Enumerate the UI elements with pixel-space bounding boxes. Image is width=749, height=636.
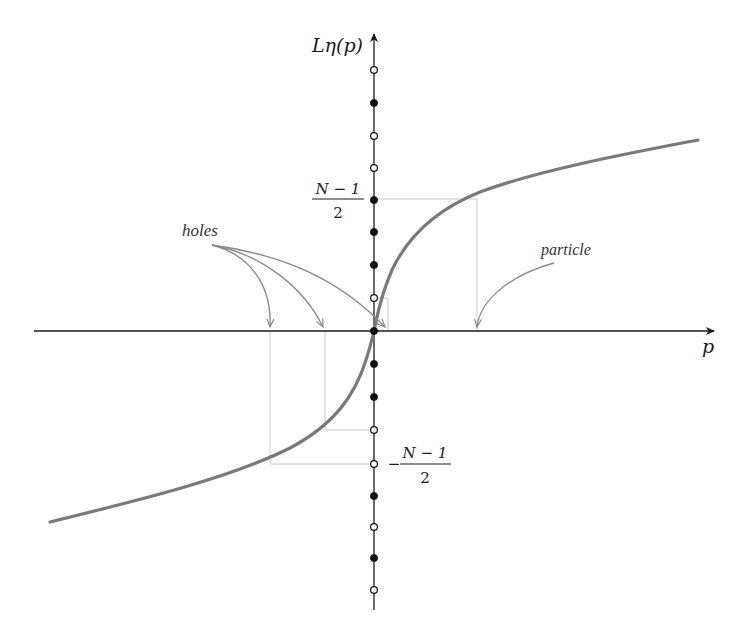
- filled-site-dot: [370, 393, 377, 400]
- filled-site-dot: [370, 261, 377, 268]
- open-site-dot: [371, 133, 378, 140]
- filled-site-dot: [370, 99, 377, 106]
- holes-arrows: [212, 245, 385, 327]
- upper-level-label: N − 1 2: [312, 180, 364, 222]
- lower-level-label: − N − 1 2: [388, 444, 451, 487]
- diagram-svg: Lη(p) p N − 1 2 − N − 1 2 holes particle: [0, 0, 749, 636]
- filled-site-dot: [370, 228, 377, 235]
- x-axis-label: p: [702, 335, 714, 357]
- open-site-dot: [371, 427, 378, 434]
- lower-level-sign: −: [388, 455, 401, 473]
- open-site-dot: [371, 295, 378, 302]
- open-site-dot: [371, 524, 378, 531]
- filled-site-dot: [370, 327, 377, 334]
- lower-level-denominator: 2: [420, 469, 430, 487]
- upper-level-denominator: 2: [333, 204, 343, 222]
- open-site-dot: [371, 67, 378, 74]
- particle-label: particle: [540, 241, 591, 259]
- open-site-dot: [371, 165, 378, 172]
- lower-level-numerator: N − 1: [402, 444, 448, 462]
- diagram-canvas: Lη(p) p N − 1 2 − N − 1 2 holes particle: [0, 0, 749, 636]
- holes-arrow-1: [212, 245, 270, 327]
- y-axis-label: Lη(p): [311, 34, 363, 56]
- open-site-dot: [371, 587, 378, 594]
- filled-site-dot: [370, 554, 377, 561]
- filled-site-dot: [370, 492, 377, 499]
- filled-site-dot: [370, 360, 377, 367]
- open-site-dot: [371, 461, 378, 468]
- particle-arrow: [477, 263, 554, 327]
- holes-arrow-2: [212, 245, 323, 327]
- holes-label: holes: [182, 221, 218, 240]
- holes-arrow-3: [212, 245, 385, 327]
- filled-site-dot: [370, 196, 377, 203]
- upper-level-numerator: N − 1: [315, 180, 361, 198]
